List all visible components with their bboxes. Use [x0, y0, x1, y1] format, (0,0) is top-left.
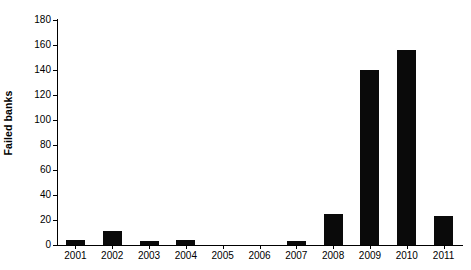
bar — [103, 231, 122, 245]
x-tick-mark — [407, 245, 408, 249]
bar — [434, 216, 453, 245]
bar — [324, 214, 343, 245]
x-tick-mark — [333, 245, 334, 249]
x-tick-mark — [296, 245, 297, 249]
x-tick-label: 2001 — [64, 251, 86, 261]
x-tick-mark — [186, 245, 187, 249]
bar-chart-figure: Failed banks 020406080100120140160180 20… — [0, 0, 471, 270]
x-tick-label: 2010 — [396, 251, 418, 261]
y-tick-label: 100 — [34, 115, 51, 125]
y-tick-mark — [53, 120, 57, 121]
bar — [397, 50, 416, 245]
y-tick-label: 180 — [34, 15, 51, 25]
x-tick-mark — [260, 245, 261, 249]
x-tick-mark — [75, 245, 76, 249]
y-tick-label: 80 — [40, 140, 51, 150]
y-tick-mark — [53, 70, 57, 71]
x-tick-label: 2009 — [359, 251, 381, 261]
y-tick-mark — [53, 95, 57, 96]
x-tick-label: 2007 — [285, 251, 307, 261]
y-tick-label: 0 — [45, 240, 51, 250]
y-tick-mark — [53, 220, 57, 221]
x-tick-label: 2008 — [322, 251, 344, 261]
y-tick-label: 40 — [40, 190, 51, 200]
x-tick-label: 2002 — [101, 251, 123, 261]
y-tick-mark — [53, 245, 57, 246]
x-tick-label: 2006 — [248, 251, 270, 261]
x-tick-label: 2003 — [138, 251, 160, 261]
x-tick-mark — [149, 245, 150, 249]
y-tick-label: 120 — [34, 90, 51, 100]
bar — [360, 70, 379, 245]
x-tick-label: 2011 — [433, 251, 455, 261]
x-tick-mark — [223, 245, 224, 249]
y-tick-mark — [53, 45, 57, 46]
y-tick-mark — [53, 170, 57, 171]
y-axis-title: Failed banks — [0, 0, 16, 245]
x-tick-mark — [112, 245, 113, 249]
y-tick-mark — [53, 145, 57, 146]
y-tick-label: 140 — [34, 65, 51, 75]
y-tick-label: 60 — [40, 165, 51, 175]
x-tick-mark — [444, 245, 445, 249]
y-tick-label: 20 — [40, 215, 51, 225]
y-axis-title-label: Failed banks — [2, 90, 14, 155]
x-tick-label: 2004 — [175, 251, 197, 261]
y-tick-mark — [53, 195, 57, 196]
y-tick-mark — [53, 20, 57, 21]
x-tick-mark — [370, 245, 371, 249]
x-tick-label: 2005 — [212, 251, 234, 261]
plot-area: 020406080100120140160180 — [57, 20, 462, 245]
y-tick-label: 160 — [34, 40, 51, 50]
